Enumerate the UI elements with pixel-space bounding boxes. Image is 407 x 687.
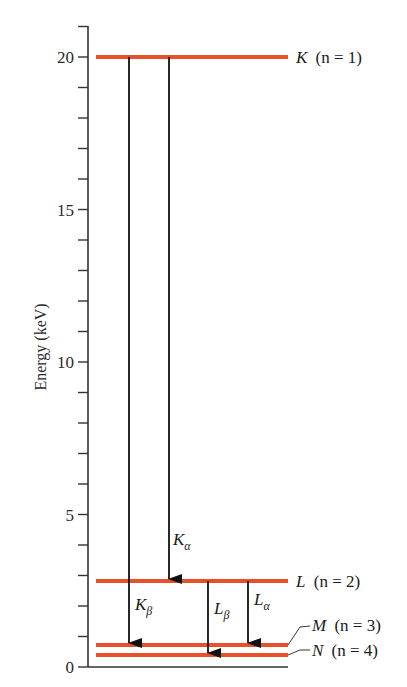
level-m-label: M (n = 3): [311, 616, 381, 635]
level-n-leader: [288, 650, 310, 655]
y-axis-tick-labels: 05101520: [57, 48, 74, 677]
y-tick-label: 20: [57, 48, 74, 67]
y-tick-label: 15: [57, 201, 74, 220]
level-labels: K (n = 1) L (n = 2) M (n = 3) N (n = 4): [288, 48, 381, 660]
l-alpha-label: Lα: [253, 590, 270, 613]
l-beta-label: Lβ: [213, 599, 229, 622]
y-axis-title: Energy (keV): [32, 303, 50, 390]
transitions: Kβ Kα Lβ Lα: [129, 57, 270, 653]
level-k-label: K (n = 1): [295, 48, 362, 67]
energy-level-diagram: 05101520 Energy (keV) K (n = 1) L (n = 2…: [0, 0, 407, 687]
k-beta-label: Kβ: [134, 595, 152, 618]
y-axis-ticks: [78, 27, 88, 668]
level-n-label: N (n = 4): [311, 641, 378, 660]
y-tick-label: 10: [57, 353, 74, 372]
y-tick-label: 5: [66, 506, 75, 525]
level-l-label: L (n = 2): [295, 572, 360, 591]
k-alpha-label: Kα: [172, 530, 191, 553]
energy-levels: [96, 57, 288, 655]
y-tick-label: 0: [66, 658, 75, 677]
level-m-leader: [288, 626, 310, 645]
